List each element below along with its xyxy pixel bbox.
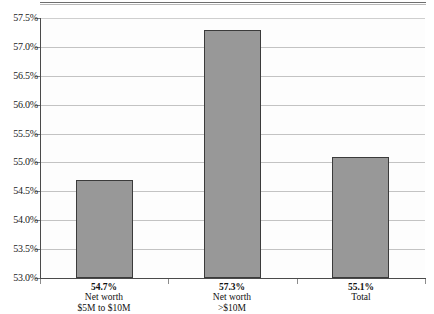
- y-axis-label: 55.0%: [0, 157, 38, 167]
- y-axis-label: 53.5%: [0, 244, 38, 254]
- category-name-line: Total: [297, 292, 425, 302]
- y-axis-label: 55.5%: [0, 129, 38, 139]
- category-name-line: Net worth: [168, 292, 296, 302]
- bar: [332, 157, 389, 278]
- y-axis-label: 56.0%: [0, 100, 38, 110]
- top-border-rule-secondary: [40, 4, 426, 5]
- y-axis-label: 57.5%: [0, 13, 38, 23]
- bar-value-label: 57.3%: [168, 282, 296, 292]
- category-name-line: $5M to $10M: [40, 303, 168, 313]
- y-axis-line: [40, 18, 41, 279]
- gridline: [40, 18, 425, 19]
- y-axis-label: 57.0%: [0, 42, 38, 52]
- bar-chart: 57.5%57.0%56.5%56.0%55.5%55.0%54.5%54.0%…: [0, 0, 434, 314]
- category-name-line: Net worth: [40, 292, 168, 302]
- y-axis-label: 53.0%: [0, 273, 38, 283]
- x-axis-category-label: 57.3%Net worth>$10M: [168, 282, 296, 313]
- category-name-line: >$10M: [168, 303, 296, 313]
- bar-value-label: 55.1%: [297, 282, 425, 292]
- y-axis-label: 56.5%: [0, 71, 38, 81]
- x-axis-line: [40, 278, 426, 279]
- y-axis-label: 54.5%: [0, 186, 38, 196]
- x-axis-category-label: 54.7%Net worth$5M to $10M: [40, 282, 168, 313]
- bar-value-label: 54.7%: [40, 282, 168, 292]
- x-axis-tick: [425, 279, 426, 284]
- bar: [76, 180, 133, 278]
- bar: [204, 30, 261, 278]
- x-axis-category-label: 55.1%Total: [297, 282, 425, 303]
- y-axis-label: 54.0%: [0, 215, 38, 225]
- top-border-rule: [40, 2, 426, 3]
